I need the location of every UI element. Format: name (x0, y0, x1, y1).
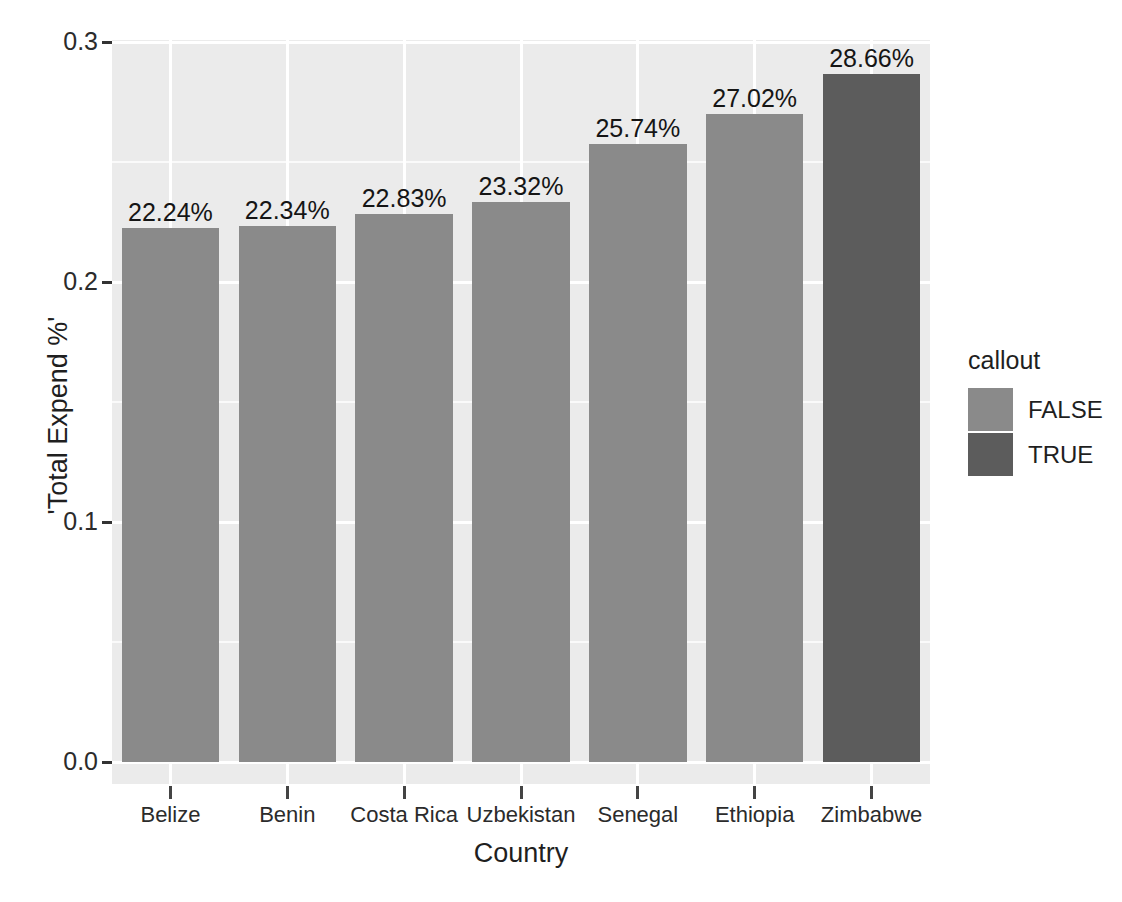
bar-value-label: 23.32% (463, 172, 580, 201)
bar[interactable] (239, 226, 336, 762)
legend: callout FALSETRUE (968, 348, 1118, 477)
bar[interactable] (355, 214, 452, 762)
x-axis-tick-mark (870, 786, 873, 799)
bar-value-label: 27.02% (696, 84, 813, 113)
x-axis-tick-mark (286, 786, 289, 799)
bar[interactable] (706, 114, 803, 762)
bar-value-label: 22.24% (112, 198, 229, 227)
legend-title: callout (968, 348, 1118, 373)
y-axis-tick-label: 0.3 (38, 29, 98, 54)
bar[interactable] (823, 74, 920, 762)
x-axis-title: Country (112, 838, 930, 869)
bar-value-label: 28.66% (813, 44, 930, 73)
legend-item-label: TRUE (1028, 443, 1093, 467)
bar[interactable] (122, 228, 219, 762)
y-axis-tick-mark (102, 41, 112, 44)
legend-color-swatch (968, 433, 1013, 476)
x-axis-tick-label: Zimbabwe (813, 802, 930, 828)
y-axis-tick-label: 0.2 (38, 269, 98, 294)
y-axis-tick-label: 0.0 (38, 749, 98, 774)
bar-chart: 'Total Expend %' 0.00.10.20.3 22.24%22.3… (0, 0, 1122, 902)
y-axis-tick-mark (102, 761, 112, 764)
bar[interactable] (472, 202, 569, 762)
y-axis-tick-label: 0.1 (38, 509, 98, 534)
x-axis-tick-label: Belize (112, 802, 229, 828)
x-axis-tick-label: Costa Rica (346, 802, 463, 828)
x-axis-tick-label: Uzbekistan (463, 802, 580, 828)
y-axis-tick-mark (102, 281, 112, 284)
legend-item-label: FALSE (1028, 398, 1103, 422)
x-axis-tick-mark (753, 786, 756, 799)
bar[interactable] (589, 144, 686, 762)
x-axis-tick-mark (403, 786, 406, 799)
x-axis-tick-mark (520, 786, 523, 799)
legend-entries: FALSETRUE (968, 387, 1118, 477)
bar-value-label: 22.83% (346, 184, 463, 213)
y-axis-tick-mark (102, 521, 112, 524)
x-axis-tick-label: Senegal (579, 802, 696, 828)
plot-panel (112, 40, 930, 784)
legend-item[interactable]: TRUE (968, 432, 1118, 477)
legend-item[interactable]: FALSE (968, 387, 1118, 432)
bar-value-label: 25.74% (579, 114, 696, 143)
x-axis-tick-label: Ethiopia (696, 802, 813, 828)
x-axis-tick-mark (636, 786, 639, 799)
x-axis-tick-label: Benin (229, 802, 346, 828)
legend-color-swatch (968, 388, 1013, 431)
x-axis-tick-mark (169, 786, 172, 799)
bar-value-label: 22.34% (229, 196, 346, 225)
